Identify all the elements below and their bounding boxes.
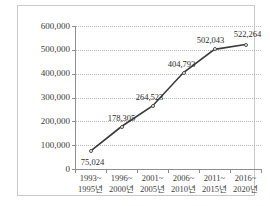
data-point-marker (151, 104, 155, 108)
data-point-label: 264,523 (136, 93, 164, 102)
data-point-marker (244, 43, 248, 47)
data-point-marker (120, 125, 124, 129)
data-point-label: 75,024 (81, 158, 104, 167)
y-tick-label: 500,000 (18, 45, 70, 54)
data-line (75, 26, 261, 169)
data-point-label: 404,793 (168, 60, 196, 69)
data-point-marker (213, 47, 217, 51)
chart-frame: 0100,000200,000300,000400,000500,000600,… (17, 5, 255, 196)
x-tick-label-end: 2020년 (224, 184, 268, 195)
data-point-marker (182, 71, 186, 75)
data-point-label: 178,305 (108, 114, 136, 123)
data-point-label: 522,264 (234, 30, 262, 39)
plot-area (75, 26, 261, 169)
data-point-marker (89, 149, 93, 153)
y-tick-label: 400,000 (18, 69, 70, 78)
y-tick-label: 200,000 (18, 117, 70, 126)
y-tick-label: 0 (18, 165, 70, 174)
x-tick-label-start: 2016~ (224, 173, 268, 184)
y-tick-label: 300,000 (18, 93, 70, 102)
x-tick-label: 2016~2020년 (224, 173, 268, 195)
y-tick-label: 100,000 (18, 141, 70, 150)
y-tick-label: 600,000 (18, 22, 70, 31)
data-point-label: 502,043 (197, 36, 225, 45)
